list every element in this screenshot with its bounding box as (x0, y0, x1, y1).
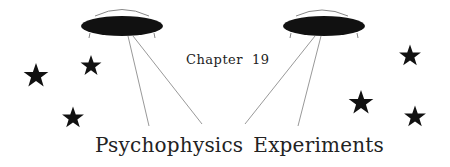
ufo-icon-right (283, 10, 365, 38)
star-icon (62, 107, 84, 128)
chapter-heading: Chapter19 (186, 52, 270, 67)
title-word-1: Psychophysics (95, 133, 243, 157)
star-icon (404, 106, 426, 127)
ufo-beam-left (128, 36, 202, 126)
star-icon (349, 90, 374, 114)
ufo-icon-left (81, 10, 163, 39)
chapter-label: Chapter (186, 52, 243, 67)
star-icon (399, 45, 421, 66)
star-icon (81, 55, 102, 75)
chapter-title: PsychophysicsExperiments (95, 133, 384, 157)
star-icon (24, 63, 49, 87)
ufo-beam-right (245, 36, 321, 126)
title-word-2: Experiments (253, 133, 384, 157)
chapter-number: 19 (252, 52, 270, 67)
